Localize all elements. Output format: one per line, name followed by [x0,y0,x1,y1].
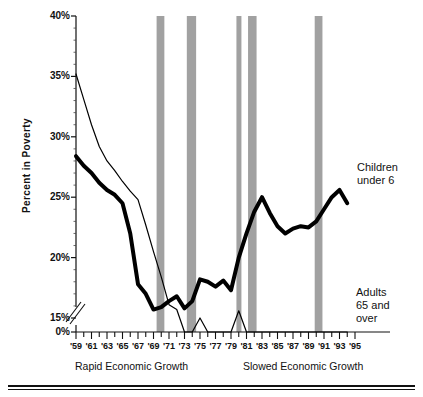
chart-plot-area [0,0,423,397]
adults-series-label-line2: 65 and [356,299,390,311]
footer-rule-thick [8,385,415,387]
recession-band [236,16,241,332]
rapid-growth-era-label: Rapid Economic Growth [75,360,188,372]
recession-band [315,16,323,332]
children-series-label: Children under 6 [357,161,398,187]
series-line-children-under-6 [76,156,347,309]
series-line-adults-65-and-over [76,74,347,332]
adults-series-label: Adults 65 and over [356,286,390,325]
children-series-label-line1: Children [357,161,398,173]
recession-band [187,16,196,332]
poverty-rate-chart-figure: Percent in Poverty 0%15%20%25%30%35%40% … [0,0,423,397]
x-axis-tick-label: '95 [344,341,366,351]
recession-band [248,16,257,332]
adults-series-label-line3: over [356,312,377,324]
slowed-growth-era-label: Slowed Economic Growth [243,360,363,372]
children-series-label-line2: under 6 [357,174,394,186]
footer-rule-thin [8,389,415,390]
adults-series-label-line1: Adults [356,286,387,298]
